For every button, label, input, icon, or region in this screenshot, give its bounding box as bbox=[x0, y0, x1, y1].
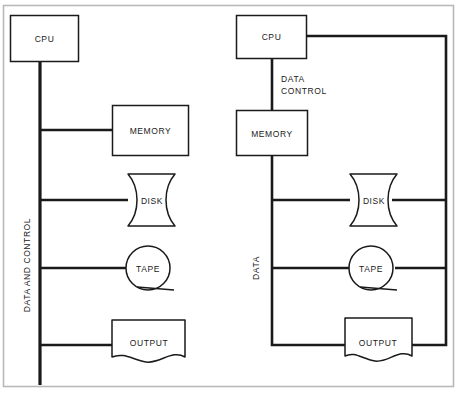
left-node-tape-label: TAPE bbox=[136, 264, 160, 274]
left-node-memory-label: MEMORY bbox=[130, 126, 172, 136]
left-node-cpu-label: CPU bbox=[35, 34, 55, 44]
right-node-cpu-label: CPU bbox=[262, 32, 282, 42]
right-data-bus-label: DATA bbox=[251, 256, 261, 280]
right-control-label-line2: CONTROL bbox=[281, 86, 327, 96]
left-bus-label: DATA AND CONTROL bbox=[22, 218, 32, 312]
right-node-output-label: OUTPUT bbox=[359, 338, 398, 348]
right-node-memory-label: MEMORY bbox=[251, 129, 293, 139]
right-diagram: CPU DATA CONTROL MEMORY DISK TAPE OUTPUT… bbox=[237, 16, 447, 362]
right-node-tape-label: TAPE bbox=[359, 264, 383, 274]
left-diagram: CPU MEMORY DISK TAPE OUTPUT DATA AND CON… bbox=[11, 16, 189, 386]
left-node-output-label: OUTPUT bbox=[130, 338, 169, 348]
right-node-disk-label: DISK bbox=[363, 196, 385, 206]
right-data-bus-line bbox=[272, 58, 345, 345]
left-node-disk-label: DISK bbox=[141, 196, 163, 206]
right-control-label-line1: DATA bbox=[281, 74, 305, 84]
diagram-canvas: CPU MEMORY DISK TAPE OUTPUT DATA AND CON… bbox=[0, 0, 458, 393]
